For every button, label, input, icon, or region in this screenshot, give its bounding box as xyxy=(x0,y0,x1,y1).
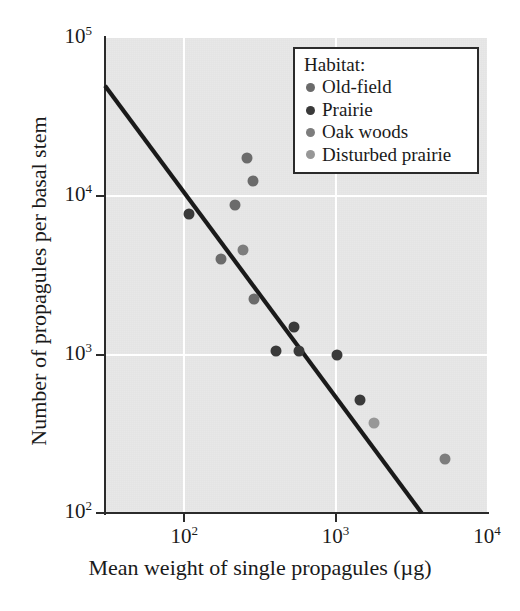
axis-tick-label: 102 xyxy=(154,526,214,547)
legend-marker-icon xyxy=(306,128,315,137)
legend-item-label: Oak woods xyxy=(322,121,408,143)
data-point xyxy=(249,293,260,304)
legend-item-label: Old-field xyxy=(322,76,392,98)
data-point xyxy=(331,349,342,360)
y-axis-tick xyxy=(96,512,105,514)
legend-marker-icon xyxy=(306,106,315,115)
scatter-plot-figure: 105104103102102103104 Habitat: Old-field… xyxy=(0,0,520,611)
y-axis-title: Number of propagules per basal stem xyxy=(26,71,52,491)
legend-item-prairie: Prairie xyxy=(303,99,469,121)
x-axis-tick xyxy=(183,513,185,522)
legend: Habitat: Old-fieldPrairieOak woodsDistur… xyxy=(293,47,479,174)
x-axis-title: Mean weight of single propagules (µg) xyxy=(0,555,520,581)
data-point xyxy=(369,418,380,429)
axis-tick-label: 103 xyxy=(306,526,366,547)
legend-title: Habitat: xyxy=(304,54,469,76)
y-axis-tick xyxy=(96,354,105,356)
data-point xyxy=(238,244,249,255)
legend-marker-icon xyxy=(306,83,315,92)
legend-entries: Old-fieldPrairieOak woodsDisturbed prair… xyxy=(303,76,469,166)
legend-marker-icon xyxy=(306,150,315,159)
axis-tick-label: 105 xyxy=(37,26,92,47)
data-point xyxy=(355,394,366,405)
data-point xyxy=(293,345,304,356)
data-point xyxy=(248,175,259,186)
legend-item-oak-woods: Oak woods xyxy=(303,121,469,143)
data-point xyxy=(288,321,299,332)
legend-item-disturbed-prairie: Disturbed prairie xyxy=(303,144,469,166)
data-point xyxy=(271,345,282,356)
legend-item-label: Prairie xyxy=(322,99,373,121)
data-point xyxy=(242,152,253,163)
y-axis-tick xyxy=(96,195,105,197)
data-point xyxy=(440,453,451,464)
axis-tick-label: 104 xyxy=(457,526,517,547)
x-axis-tick xyxy=(335,513,337,522)
data-point xyxy=(229,200,240,211)
legend-item-label: Disturbed prairie xyxy=(322,144,451,166)
legend-item-old-field: Old-field xyxy=(303,76,469,98)
axis-tick-label: 102 xyxy=(37,501,92,522)
data-point xyxy=(184,209,195,220)
data-point xyxy=(215,254,226,265)
